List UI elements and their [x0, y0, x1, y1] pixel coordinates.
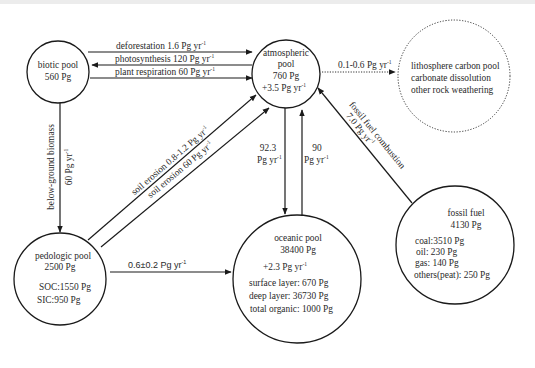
- oceanic-pool-name: oceanic pool: [274, 233, 322, 243]
- pedologic-soc: SOC:1550 Pg: [39, 282, 91, 292]
- pedologic-to-ocean-label: 0.6±0.2 Pg yr-1: [128, 259, 186, 270]
- ocean-release-value: 90: [312, 143, 322, 153]
- fossil-combustion-arrow: [318, 88, 412, 203]
- fossil-oil: oil: 230 Pg: [416, 247, 457, 257]
- atmospheric-pool-name-2: pool: [278, 59, 295, 69]
- plant-respiration-label: plant respiration 60 Pg yr-1: [115, 66, 215, 77]
- ocean-release-unit: Pg yr-1: [304, 154, 329, 165]
- oceanic-pool-change: +2.3 Pg yr-1: [263, 261, 307, 272]
- atmospheric-pool-change: +3.5 Pg yr-1: [262, 82, 306, 93]
- lithosphere-line-2: carbonate dissolution: [411, 73, 491, 83]
- diagram-canvas: biotic pool 560 Pg atmospheric pool 760 …: [0, 0, 535, 368]
- atmospheric-pool-name-1: atmospheric: [263, 48, 309, 58]
- fossil-coal: coal:3510 Pg: [415, 236, 465, 246]
- oceanic-surface-layer: surface layer: 670 Pg: [249, 278, 329, 288]
- lithosphere-flux-label: 0.1-0.6 Pg yr-1: [338, 59, 392, 70]
- soil-erosion-1-arrow: [88, 95, 256, 240]
- pedologic-sic: SIC:950 Pg: [37, 295, 81, 305]
- biotic-pool-name: biotic pool: [38, 60, 79, 70]
- pedologic-pool-size: 2500 Pg: [45, 262, 76, 272]
- ocean-uptake-unit: Pg yr-1: [257, 154, 282, 165]
- ocean-uptake-value: 92.3: [260, 143, 277, 153]
- biotic-pool-size: 560 Pg: [45, 72, 72, 82]
- oceanic-total-organic: total organic: 1000 Pg: [250, 304, 333, 314]
- deforestation-label: deforestation 1.6 Pg yr-1: [116, 40, 206, 51]
- fossil-fuel-name: fossil fuel: [447, 208, 485, 218]
- pedologic-pool-circle: [14, 233, 106, 325]
- lithosphere-line-3: other rock weathering: [411, 85, 494, 95]
- fossil-gas: gas: 140 Pg: [415, 258, 459, 268]
- fossil-fuel-size: 4130 Pg: [451, 220, 482, 230]
- soil-erosion-2-arrow: [101, 108, 269, 247]
- oceanic-deep-layer: deep layer: 36730 Pg: [249, 291, 329, 301]
- carbon-cycle-diagram: biotic pool 560 Pg atmospheric pool 760 …: [0, 0, 535, 368]
- below-ground-biomass-label: below-ground biomass: [46, 124, 56, 210]
- atmospheric-pool-size: 760 Pg: [273, 71, 300, 81]
- oceanic-pool-size: 38400 Pg: [280, 245, 316, 255]
- below-ground-biomass-rate: 60 Pg yr-1: [63, 149, 74, 186]
- lithosphere-line-1: lithosphere carbon pool: [411, 61, 500, 71]
- photosynthesis-label: photosynthesis 120 Pg yr-1: [115, 53, 214, 64]
- pedologic-pool-name: pedologic pool: [35, 251, 91, 261]
- fossil-others: others(peat): 250 Pg: [414, 270, 490, 281]
